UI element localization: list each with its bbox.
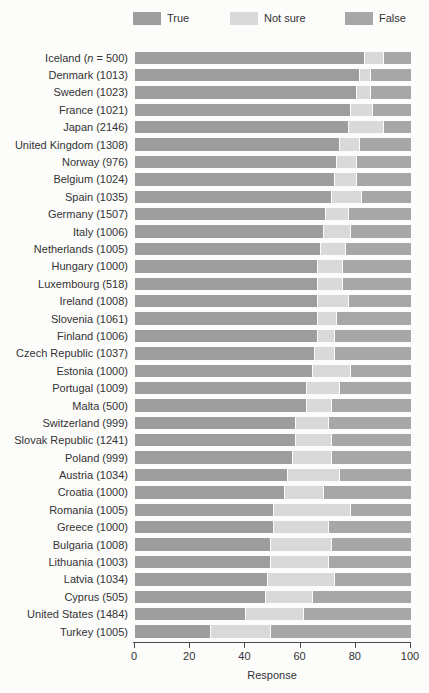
bar-segment-not-sure — [340, 138, 358, 150]
country-label: Switzerland (999) — [0, 417, 135, 429]
country-label: Slovenia (1061) — [0, 313, 135, 325]
bar-segment-true — [135, 312, 317, 324]
country-label: Belgium (1024) — [0, 173, 135, 185]
bar-segment-true — [135, 278, 317, 290]
bar-segment-false — [340, 469, 411, 481]
bar-segment-true — [135, 417, 295, 429]
bar-row: Iceland (n = 500) — [0, 49, 429, 66]
bar-segment-false — [384, 121, 411, 133]
country-label: Slovak Republic (1241) — [0, 434, 135, 446]
bar-segment-true — [135, 365, 312, 377]
bar-row: Bulgaria (1008) — [0, 536, 429, 553]
bar-row: Austria (1034) — [0, 466, 429, 483]
legend-swatch-true — [133, 12, 161, 25]
bar-row: Cyprus (505) — [0, 588, 429, 605]
bar-segment-false — [332, 451, 411, 463]
legend-label-not-sure: Not sure — [264, 12, 306, 24]
x-axis-tick-label: 80 — [340, 650, 370, 662]
country-label: Germany (1507) — [0, 208, 135, 220]
bar-segment-false — [357, 156, 411, 168]
bar-rows-container: Iceland (n = 500)Denmark (1013)Sweden (1… — [0, 49, 429, 640]
x-axis-tick — [189, 643, 190, 648]
stacked-bar — [135, 608, 411, 620]
country-label: Portugal (1009) — [0, 382, 135, 394]
stacked-bar — [135, 312, 411, 324]
bar-segment-not-sure — [266, 591, 312, 603]
bar-segment-true — [135, 573, 267, 585]
bar-segment-true — [135, 86, 356, 98]
legend-swatch-false — [345, 12, 373, 25]
country-label: Romania (1005) — [0, 504, 135, 516]
stacked-bar — [135, 69, 411, 81]
stacked-bar — [135, 121, 411, 133]
bar-segment-true — [135, 608, 245, 620]
bar-row: Ireland (1008) — [0, 292, 429, 309]
bar-segment-not-sure — [318, 295, 347, 307]
bar-segment-false — [351, 225, 411, 237]
bar-segment-not-sure — [288, 469, 339, 481]
bar-row: Slovenia (1061) — [0, 310, 429, 327]
country-label: Malta (500) — [0, 400, 135, 412]
bar-segment-false — [329, 417, 411, 429]
bar-segment-not-sure — [307, 399, 331, 411]
bar-segment-false — [343, 278, 411, 290]
bar-segment-not-sure — [293, 451, 331, 463]
bar-segment-false — [304, 608, 411, 620]
bar-segment-not-sure — [211, 625, 271, 637]
bar-row: Japan (2146) — [0, 119, 429, 136]
legend-item-not-sure: Not sure — [230, 11, 306, 25]
country-label: Netherlands (1005) — [0, 243, 135, 255]
bar-segment-not-sure — [357, 86, 370, 98]
country-label: France (1021) — [0, 104, 135, 116]
country-label: Bulgaria (1008) — [0, 539, 135, 551]
country-label: Norway (976) — [0, 156, 135, 168]
stacked-bar — [135, 278, 411, 290]
bar-segment-true — [135, 330, 317, 342]
country-label: Greece (1000) — [0, 521, 135, 533]
stacked-bar — [135, 243, 411, 255]
bar-row: Czech Republic (1037) — [0, 345, 429, 362]
bar-segment-true — [135, 243, 320, 255]
bar-segment-true — [135, 347, 314, 359]
stacked-bar — [135, 347, 411, 359]
stacked-bar — [135, 434, 411, 446]
x-axis-tick-label: 60 — [285, 650, 315, 662]
bar-segment-not-sure — [332, 191, 361, 203]
x-axis-tick — [355, 643, 356, 648]
bar-row: Netherlands (1005) — [0, 240, 429, 257]
country-label: United Kingdom (1308) — [0, 139, 135, 151]
bar-segment-false — [373, 104, 411, 116]
stacked-bar — [135, 156, 411, 168]
bar-row: Greece (1000) — [0, 519, 429, 536]
bar-segment-not-sure — [326, 208, 347, 220]
bar-segment-true — [135, 295, 317, 307]
bar-segment-false — [357, 173, 411, 185]
bar-segment-false — [349, 208, 411, 220]
bar-row: United States (1484) — [0, 606, 429, 623]
bar-segment-false — [340, 382, 411, 394]
stacked-bar — [135, 399, 411, 411]
bar-segment-not-sure — [307, 382, 339, 394]
bar-row: Italy (1006) — [0, 223, 429, 240]
bar-row: Germany (1507) — [0, 206, 429, 223]
country-label: Czech Republic (1037) — [0, 347, 135, 359]
bar-segment-false — [329, 556, 411, 568]
stacked-bar — [135, 504, 411, 516]
stacked-bar — [135, 365, 411, 377]
stacked-bar — [135, 295, 411, 307]
bar-segment-true — [135, 69, 359, 81]
bar-segment-true — [135, 225, 323, 237]
bar-segment-true — [135, 52, 364, 64]
bar-row: Romania (1005) — [0, 501, 429, 518]
bar-segment-not-sure — [268, 573, 333, 585]
bar-segment-true — [135, 451, 292, 463]
stacked-bar — [135, 86, 411, 98]
x-axis-line — [133, 642, 411, 643]
bar-segment-false — [313, 591, 411, 603]
bar-row: Croatia (1000) — [0, 484, 429, 501]
bar-segment-not-sure — [318, 330, 334, 342]
country-label: Cyprus (505) — [0, 591, 135, 603]
bar-row: Poland (999) — [0, 449, 429, 466]
legend-label-false: False — [379, 12, 406, 24]
country-label: Estonia (1000) — [0, 365, 135, 377]
